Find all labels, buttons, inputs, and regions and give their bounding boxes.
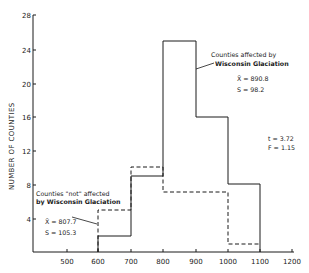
t-statistic: t = 3.72	[268, 135, 294, 142]
series-not-affected-dashed	[98, 167, 260, 252]
y-tick-20: 20	[22, 81, 31, 89]
not-affected-label-line2: by Wisconsin Glaciation	[36, 198, 120, 206]
not-affected-mean: X̄ = 807.7	[45, 218, 77, 225]
not-affected-sd: S = 105.3	[45, 229, 76, 236]
y-tick-28: 28	[22, 12, 31, 20]
affected-mean: X̄ = 890.8	[237, 75, 269, 82]
histogram-chart: 4 8 12 16 20 24 28 500 600 700 800 900 1…	[0, 0, 309, 273]
annotation-not-affected: Counties "not" affected by Wisconsin Gla…	[36, 190, 120, 236]
y-tick-labels: 4 8 12 16 20 24 28	[22, 12, 31, 224]
x-tick-1200: 1200	[283, 258, 301, 266]
y-tick-16: 16	[22, 114, 31, 122]
y-tick-4: 4	[27, 216, 32, 224]
leader-line-affected	[196, 63, 214, 69]
x-tick-700: 700	[124, 258, 137, 266]
series-affected-solid	[98, 41, 260, 252]
annotation-affected: Counties affected by Wisconsin Glaciatio…	[211, 51, 289, 93]
x-tick-800: 800	[156, 258, 169, 266]
affected-label-line1: Counties affected by	[211, 51, 276, 59]
y-tick-8: 8	[27, 182, 31, 190]
x-tick-1100: 1100	[251, 258, 269, 266]
x-tick-500: 500	[60, 258, 73, 266]
y-tick-24: 24	[22, 47, 31, 55]
affected-label-line2: Wisconsin Glaciation	[215, 60, 289, 67]
x-tick-600: 600	[91, 258, 104, 266]
not-affected-label-line1: Counties "not" affected	[36, 190, 110, 197]
y-tick-12: 12	[22, 148, 31, 156]
annotation-tests: t = 3.72 F = 1.15	[268, 135, 295, 151]
affected-sd: S = 98.2	[237, 86, 264, 93]
x-tick-1000: 1000	[219, 258, 237, 266]
y-axis-label: NUMBER OF COUNTIES	[8, 102, 16, 190]
f-statistic: F = 1.15	[268, 144, 295, 151]
x-tick-labels: 500 600 700 800 900 1000 1100 1200	[60, 258, 301, 266]
x-tick-900: 900	[189, 258, 202, 266]
